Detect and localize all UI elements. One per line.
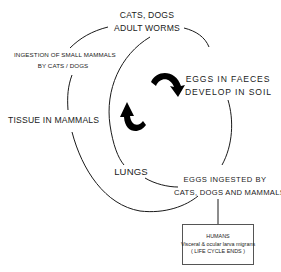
node-eggs-ingested: EGGS INGESTED BY CATS, DOGS AND MAMMALS [174,176,276,196]
clockwise-arrow-icon [151,73,185,97]
ingestion-line1: INGESTION OF SMALL MAMMALS [14,52,112,58]
node-tissue: TISSUE IN MAMMALS [8,116,98,125]
humans-line3: ( LIFE CYCLE ENDS ) [191,248,245,256]
node-adult-worms: CATS, DOGS ADULT WORMS [108,11,186,32]
ingestion-line2: BY CATS / DOGS [14,63,112,69]
tissue-label: TISSUE IN MAMMALS [8,116,98,125]
humans-box: HUMANS Visceral & ocular larva migrans (… [182,224,254,265]
node-lungs: LUNGS [112,167,150,177]
soil-connector [222,100,232,165]
node-ingestion: INGESTION OF SMALL MAMMALS BY CATS / DOG… [14,52,112,69]
lungs-label: LUNGS [112,167,150,177]
node-eggs-faeces: EGGS IN FAECES DEVELOP IN SOIL [185,75,271,96]
eggs-ingested-line1: EGGS INGESTED BY [174,176,276,184]
outer-arc-top-left [70,27,108,48]
faeces-connector [184,28,209,47]
eggs-faeces-line1: EGGS IN FAECES [185,75,271,84]
humans-line1: HUMANS [206,233,229,241]
eggs-ingested-line2: CATS, DOGS AND MAMMALS [174,189,276,197]
outer-arc-left-upper [68,75,72,110]
humans-line2: Visceral & ocular larva migrans [181,241,255,249]
eggs-faeces-line2: DEVELOP IN SOIL [185,88,271,97]
adult-worms-line1: CATS, DOGS [108,11,186,20]
adult-worms-line2: ADULT WORMS [108,24,186,33]
counterclockwise-arrow-icon [120,102,146,131]
